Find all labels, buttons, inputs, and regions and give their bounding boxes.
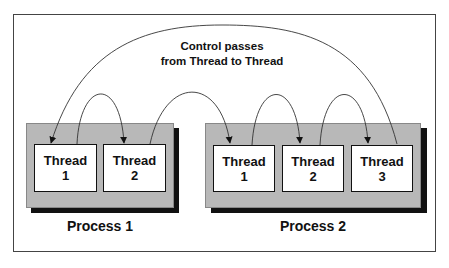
arrow-p1t2-to-p2t1	[150, 92, 230, 144]
control-flow-arrows	[0, 0, 449, 268]
arrow-p1t1-to-p1t2	[77, 94, 124, 144]
arrow-p2t2-to-p2t3	[320, 94, 368, 145]
arrow-p2t1-to-p2t2	[252, 94, 300, 145]
arrow-p2t3-to-p1t1	[51, 25, 397, 144]
